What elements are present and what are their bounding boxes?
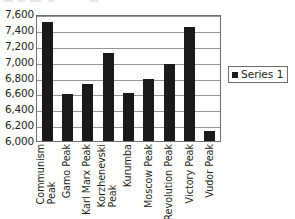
bar[interactable] [42, 22, 53, 141]
x-axis-label-slot: Victory Peak [180, 143, 201, 219]
plot-area [36, 15, 221, 142]
y-axis-tick-label: 7,200 [0, 41, 34, 52]
bar-slot [98, 16, 118, 141]
y-axis-tick-label: 6,000 [0, 136, 34, 147]
y-axis: 7,6007,4007,2007,0006,8006,6006,4006,200… [0, 10, 34, 144]
x-axis-label-slot: Vudor Peak [201, 143, 222, 219]
bar-slot [118, 16, 138, 141]
bar[interactable] [82, 84, 93, 141]
x-axis-tick-label: Gamo Peak [62, 144, 73, 198]
bars-container [37, 16, 220, 141]
x-axis-tick-label: Moscow Peak [144, 144, 155, 208]
x-axis-tick-label: Revolution Peak [164, 144, 175, 219]
chart-legend: Series 1 [228, 66, 288, 83]
bar[interactable] [204, 131, 215, 141]
x-axis: Communism PeakGamo PeakKarl Marx PeakKor… [36, 143, 221, 219]
y-axis-tick-label: 6,400 [0, 104, 34, 115]
y-axis-tick-label: 7,400 [0, 25, 34, 36]
y-axis-tick-label: 7,000 [0, 57, 34, 68]
x-axis-label-slot: Revolution Peak [159, 143, 180, 219]
x-axis-tick-label: Kurumba [123, 144, 134, 187]
bar[interactable] [123, 93, 134, 141]
bar-slot [159, 16, 179, 141]
x-axis-label-slot: Gamo Peak [57, 143, 78, 219]
bar[interactable] [143, 79, 154, 141]
x-axis-label-slot: Karl Marx Peak [77, 143, 98, 219]
bar-slot [139, 16, 159, 141]
bar[interactable] [164, 64, 175, 141]
bar-slot [200, 16, 220, 141]
cropped-title-artifact [4, 0, 124, 3]
bar[interactable] [62, 94, 73, 141]
x-axis-tick-label: Victory Peak [185, 144, 196, 203]
x-axis-label-slot: Kurumba [118, 143, 139, 219]
y-axis-tick-label: 7,600 [0, 9, 34, 20]
x-axis-tick-label: Vudor Peak [205, 144, 216, 198]
bar-slot [179, 16, 199, 141]
bar-slot [78, 16, 98, 141]
bar-slot [57, 16, 77, 141]
y-axis-tick-label: 6,600 [0, 88, 34, 99]
x-axis-tick-label: Korzhenevski Peak [97, 144, 118, 208]
y-axis-tick-label: 6,800 [0, 73, 34, 84]
bar[interactable] [184, 27, 195, 141]
legend-swatch-icon [232, 72, 238, 78]
bar-slot [37, 16, 57, 141]
legend-label: Series 1 [241, 69, 283, 80]
bar-chart: 7,6007,4007,2007,0006,8006,6006,4006,200… [0, 0, 295, 219]
bar[interactable] [103, 53, 114, 141]
x-axis-tick-label: Karl Marx Peak [82, 144, 93, 215]
x-axis-label-slot: Communism Peak [36, 143, 57, 219]
y-axis-tick-label: 6,200 [0, 120, 34, 131]
x-axis-label-slot: Korzhenevski Peak [98, 143, 119, 219]
x-axis-tick-label: Communism Peak [36, 144, 57, 204]
x-axis-label-slot: Moscow Peak [139, 143, 160, 219]
